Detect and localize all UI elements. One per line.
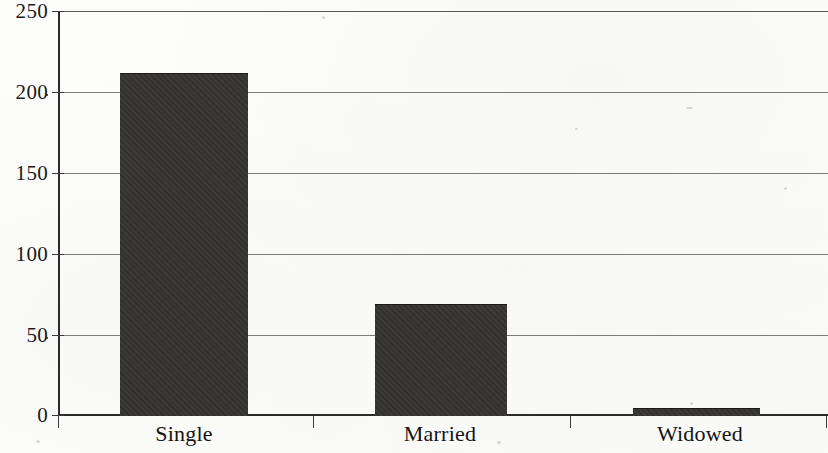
scan-speck: [690, 402, 693, 405]
bar-widowed: [633, 408, 760, 416]
bar-married: [375, 304, 507, 416]
scan-speck: [575, 128, 578, 130]
y-axis-line: [58, 11, 60, 416]
x-axis-label-single: Single: [108, 421, 260, 447]
gridline-250: [58, 11, 828, 12]
x-tick-1: [313, 416, 314, 428]
bar-chart: 250 200 150 100 50 0 Single Married Wido…: [0, 0, 828, 453]
x-tick-2: [570, 416, 571, 428]
y-tick-50: [52, 335, 64, 336]
x-axis-label-widowed: Widowed: [624, 421, 776, 447]
y-axis-label-150: 150: [4, 163, 48, 184]
y-axis-label-100: 100: [4, 244, 48, 265]
bar-single: [120, 73, 248, 416]
y-axis-label-200-speck: [46, 94, 48, 96]
y-axis-label-50-speck: [46, 337, 48, 339]
scan-speck: [36, 440, 40, 443]
y-axis-label-250: 250: [4, 1, 48, 22]
y-tick-100: [52, 254, 64, 255]
x-tick-end: [826, 416, 827, 428]
x-tick-start: [58, 416, 59, 428]
y-tick-200: [52, 92, 64, 93]
scan-speck: [784, 187, 787, 190]
y-tick-150: [52, 173, 64, 174]
scan-speck: [497, 441, 501, 444]
y-axis-label-50: 50: [4, 325, 48, 346]
y-tick-250: [52, 11, 64, 12]
scan-speck: [686, 107, 693, 109]
scan-speck: [322, 16, 325, 19]
y-axis-label-200: 200: [4, 82, 48, 103]
x-axis-label-married: Married: [364, 421, 516, 447]
y-axis-label-0: 0: [4, 405, 48, 426]
